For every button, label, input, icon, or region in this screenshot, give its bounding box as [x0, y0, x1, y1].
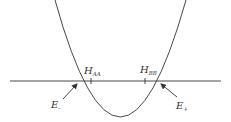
label-h-bb-main: H — [139, 64, 149, 75]
label-e-minus-sub: - — [58, 104, 60, 111]
label-e-plus: E+ — [175, 100, 188, 112]
label-h-aa: HAA — [83, 65, 101, 77]
parabola-curve — [55, 0, 186, 117]
label-h-bb-sub: BB — [148, 70, 157, 76]
label-h-bb: HBB — [139, 64, 157, 76]
arrow-e-plus — [161, 84, 177, 97]
arrow-e-minus — [63, 84, 77, 99]
parabola-diagram: HAA HBB E- E+ — [0, 0, 231, 122]
label-e-plus-sub: + — [183, 105, 188, 112]
label-e-minus: E- — [50, 99, 60, 111]
label-h-aa-main: H — [83, 65, 93, 76]
label-h-aa-sub: AA — [92, 71, 101, 77]
